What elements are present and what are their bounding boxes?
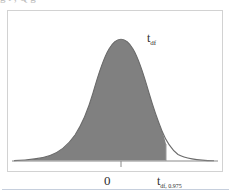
figure-frame: tdf: [7, 10, 223, 172]
scan-top-text-remnant: g l , Q g: [0, 0, 231, 7]
axis-tick-label-zero: 0: [104, 173, 111, 189]
scan-top-text: g l , Q g: [0, 0, 36, 3]
curve-label: tdf: [147, 31, 156, 47]
t-distribution-plot: [8, 11, 222, 171]
curve-label-subscript: df: [150, 39, 156, 47]
axis-tick-label-critical-value: tdf, 0.975: [157, 174, 182, 189]
scan-bottom-rule: [2, 189, 229, 190]
tick-zero-text: 0: [104, 173, 111, 188]
